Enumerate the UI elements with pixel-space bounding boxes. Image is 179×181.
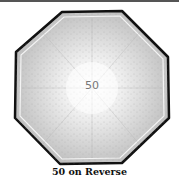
coin-image: 50 — [0, 0, 179, 170]
coin-denomination: 50 — [80, 79, 104, 92]
figure-caption: 50 on Reverse — [0, 166, 179, 177]
